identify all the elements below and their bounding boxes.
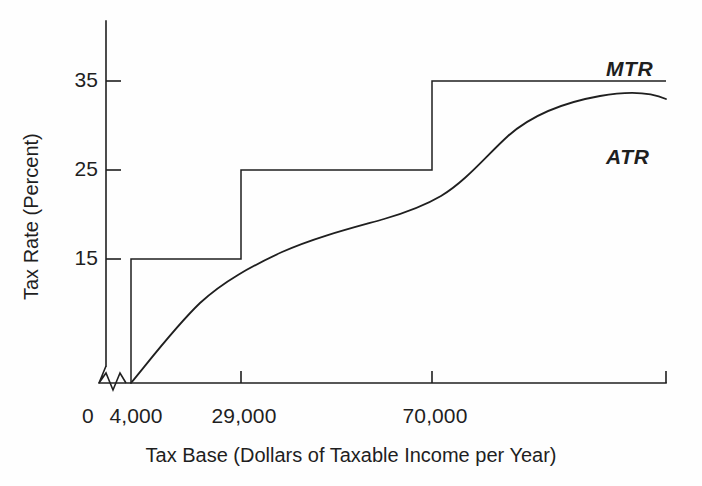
y-tick-label-25: 25: [50, 157, 98, 181]
series-label-mtr: MTR: [606, 57, 653, 81]
y-axis-title: Tax Rate (Percent): [20, 133, 43, 300]
series-label-atr: ATR: [606, 145, 649, 169]
x-tick-label-70000: 70,000: [387, 404, 483, 428]
x-tick-label-4000: 4,000: [99, 404, 173, 428]
x-tick-label-29000: 29,000: [196, 404, 292, 428]
x-axis-title: Tax Base (Dollars of Taxable Income per …: [0, 444, 702, 467]
y-tick-label-15: 15: [50, 246, 98, 270]
chart-figure: 35 25 15 0 4,000 29,000 70,000 Tax Rate …: [0, 0, 702, 486]
series-line-mtr: [131, 81, 666, 383]
series-line-atr: [131, 93, 666, 383]
y-tick-label-35: 35: [50, 68, 98, 92]
axis-break-mark: [99, 366, 126, 390]
